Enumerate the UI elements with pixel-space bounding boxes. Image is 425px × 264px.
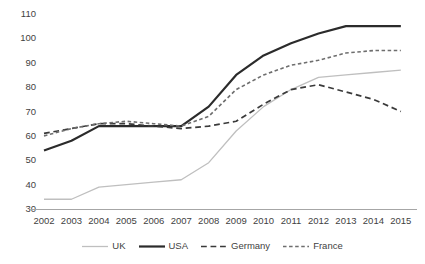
x-axis-tick-label: 2010 bbox=[249, 216, 279, 226]
x-axis-tick-label: 2015 bbox=[386, 216, 416, 226]
x-axis-tick-label: 2005 bbox=[111, 216, 141, 226]
x-axis-tick-label: 2008 bbox=[194, 216, 224, 226]
x-axis-tick-label: 2014 bbox=[358, 216, 388, 226]
x-axis-tick-label: 2007 bbox=[166, 216, 196, 226]
legend-swatch-uk bbox=[82, 242, 108, 251]
chart-legend: UKUSAGermanyFrance bbox=[0, 236, 425, 256]
x-axis-tick-label: 2012 bbox=[304, 216, 334, 226]
legend-label: USA bbox=[169, 241, 189, 251]
plot-area: 11010090807060504030 2002200320042005200… bbox=[0, 0, 425, 264]
legend-swatch-france bbox=[283, 242, 309, 251]
legend-item-france[interactable]: France bbox=[283, 241, 343, 251]
x-axis-tick-label: 2009 bbox=[221, 216, 251, 226]
x-axis-tick-label: 2004 bbox=[84, 216, 114, 226]
x-axis-tick-label: 2013 bbox=[331, 216, 361, 226]
x-axis-tick-label: 2002 bbox=[29, 216, 59, 226]
legend-item-germany[interactable]: Germany bbox=[201, 241, 270, 251]
x-axis-tick-label: 2006 bbox=[139, 216, 169, 226]
legend-swatch-germany bbox=[201, 242, 227, 251]
x-axis-tick-label: 2011 bbox=[276, 216, 306, 226]
line-chart: 11010090807060504030 2002200320042005200… bbox=[0, 0, 425, 264]
legend-label: Germany bbox=[231, 241, 270, 251]
legend-label: UK bbox=[112, 241, 125, 251]
x-axis-tick-label: 2003 bbox=[56, 216, 86, 226]
legend-item-uk[interactable]: UK bbox=[82, 241, 125, 251]
x-axis: 2002200320042005200620072008200920102011… bbox=[30, 212, 420, 232]
series-line-usa bbox=[44, 26, 401, 150]
legend-swatch-usa bbox=[139, 242, 165, 251]
legend-label: France bbox=[313, 241, 343, 251]
legend-item-usa[interactable]: USA bbox=[139, 241, 189, 251]
